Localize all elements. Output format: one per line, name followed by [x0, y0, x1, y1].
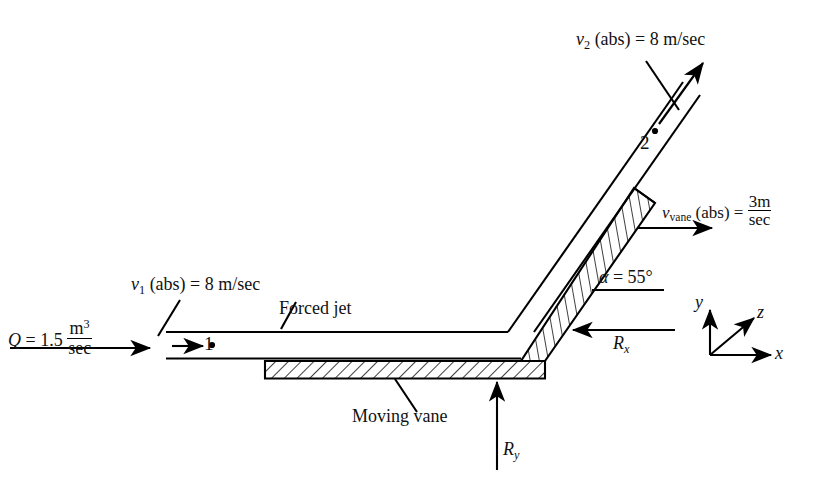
diagram-canvas: Q = 1.5 m3sec v1 (abs) = 8 m/sec 1 Force…	[0, 0, 831, 485]
v-vane-label: vvane (abs) = 3msec	[662, 193, 771, 229]
Rx-label: Rx	[613, 334, 629, 356]
axis-x-label: x	[775, 344, 783, 363]
forced-jet-label: Forced jet	[279, 299, 351, 318]
v1-label: v1 (abs) = 8 m/sec	[131, 275, 260, 297]
point2-label: 2	[640, 133, 650, 153]
v2-label: v2 (abs) = 8 m/sec	[576, 30, 705, 52]
v2-exit-arrow	[659, 63, 703, 124]
horizontal-vane-body	[265, 361, 545, 379]
point1-label: 1	[204, 334, 214, 354]
point2-marker-dot	[652, 128, 658, 134]
v2-leader-line	[646, 61, 679, 110]
v1-leader-line	[158, 300, 180, 336]
moving-vane-label: Moving vane	[352, 407, 447, 426]
horizontal-jet-channel	[166, 332, 521, 359]
flow-rate-label: Q = 1.5 m3sec	[8, 318, 92, 357]
axis-z-arrow	[710, 318, 754, 355]
axis-z-label: z	[757, 303, 764, 322]
alpha-label: α = 55°	[599, 268, 653, 287]
axis-y-label: y	[695, 293, 703, 312]
Ry-label: Ry	[503, 440, 519, 462]
